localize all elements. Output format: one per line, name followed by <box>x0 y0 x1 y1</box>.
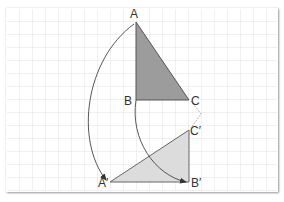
diagram-canvas <box>0 0 284 202</box>
label-c-prime: C′ <box>190 125 201 137</box>
label-a: A <box>130 8 138 20</box>
label-b-prime: B′ <box>191 177 201 189</box>
label-a-prime: A′ <box>98 177 108 189</box>
label-b: B <box>124 95 132 107</box>
label-c: C <box>191 95 200 107</box>
